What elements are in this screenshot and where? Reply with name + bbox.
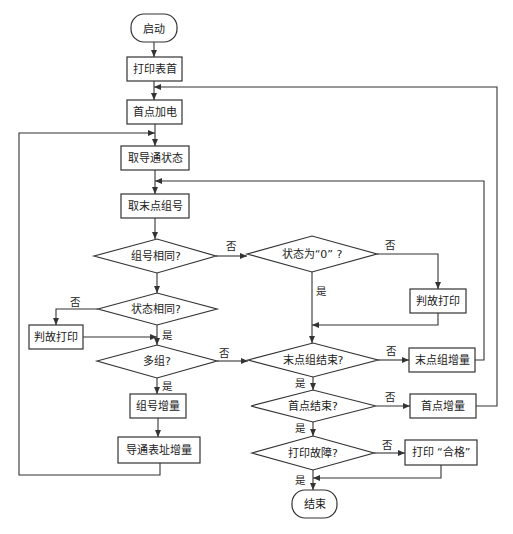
label-no-first-point-done: 否	[385, 391, 396, 403]
node-end-group-increment: 末点组增量	[409, 348, 475, 372]
node-first-point-power: 首点加电	[127, 100, 182, 124]
svg-text:首点增量: 首点增量	[421, 399, 465, 413]
svg-text:末点组增量: 末点组增量	[415, 353, 470, 367]
svg-text:末点组结束?: 末点组结束?	[283, 353, 344, 367]
node-print-pass: 打印 “合格”	[405, 440, 477, 465]
node-first-point-increment: 首点增量	[410, 394, 476, 418]
decision-end-group-done: 末点组结束?	[248, 343, 378, 377]
svg-text:多组?: 多组?	[143, 354, 171, 368]
node-fault-print-left: 判故打印	[29, 325, 83, 349]
label-yes-state-same: 是	[162, 329, 173, 341]
svg-text:判故打印: 判故打印	[34, 330, 78, 344]
decision-group-same: 组号相同?	[94, 239, 216, 273]
svg-text:组号增量: 组号增量	[136, 399, 180, 413]
svg-text:首点加电: 首点加电	[133, 105, 177, 119]
svg-text:首点结束?: 首点结束?	[288, 399, 338, 413]
decision-state-zero: 状态为“0” ?	[247, 236, 377, 272]
node-conduction-table-increment: 导通表址增量	[118, 437, 200, 463]
node-fault-print-right: 判故打印	[410, 289, 466, 313]
start-label: 启动	[143, 23, 165, 36]
node-get-conduction-state: 取导通状态	[121, 146, 189, 170]
label-yes-multi-group: 是	[162, 380, 173, 392]
label-yes-first-point-done: 是	[295, 422, 306, 434]
svg-text:打印故障?: 打印故障?	[288, 446, 338, 460]
node-group-increment: 组号增量	[130, 394, 186, 418]
flowchart: 启动 打印表首 首点加电 取导通状态 取末点组号 组号相同? 状态为“0” ? …	[0, 0, 513, 534]
decision-multi-group: 多组?	[97, 345, 217, 378]
svg-text:状态相同?: 状态相同?	[131, 302, 181, 316]
node-end: 结束	[292, 490, 337, 518]
decision-first-point-done: 首点结束?	[251, 390, 376, 422]
node-print-header: 打印表首	[127, 57, 182, 81]
label-no-state-zero: 否	[385, 239, 396, 251]
svg-text:导通表址增量: 导通表址增量	[126, 443, 192, 457]
svg-text:判故打印: 判故打印	[416, 294, 460, 308]
label-no-state-same: 否	[70, 296, 81, 308]
label-no-end-group-done: 否	[386, 345, 397, 357]
node-start: 启动	[131, 14, 177, 42]
svg-text:组号相同?: 组号相同?	[131, 249, 181, 263]
svg-text:取末点组号: 取末点组号	[128, 199, 183, 213]
svg-text:取导通状态: 取导通状态	[128, 151, 183, 165]
svg-text:状态为“0” ?: 状态为“0” ?	[282, 247, 343, 261]
label-no-print-fault: 否	[382, 439, 393, 451]
decision-print-fault: 打印故障?	[252, 436, 374, 470]
label-yes-print-fault: 是	[295, 474, 306, 486]
label-yes-end-group-done: 是	[295, 377, 306, 389]
node-get-end-point-group: 取末点组号	[121, 194, 189, 218]
svg-text:打印 “合格”: 打印 “合格”	[412, 445, 471, 459]
decision-state-same: 状态相同?	[98, 293, 217, 325]
label-yes-state-zero: 是	[316, 285, 327, 297]
connectors	[19, 42, 497, 490]
svg-text:结束: 结束	[304, 498, 326, 511]
svg-text:打印表首: 打印表首	[133, 62, 177, 76]
label-no-multi-group: 否	[219, 347, 230, 359]
label-no-group-same: 否	[226, 240, 237, 252]
